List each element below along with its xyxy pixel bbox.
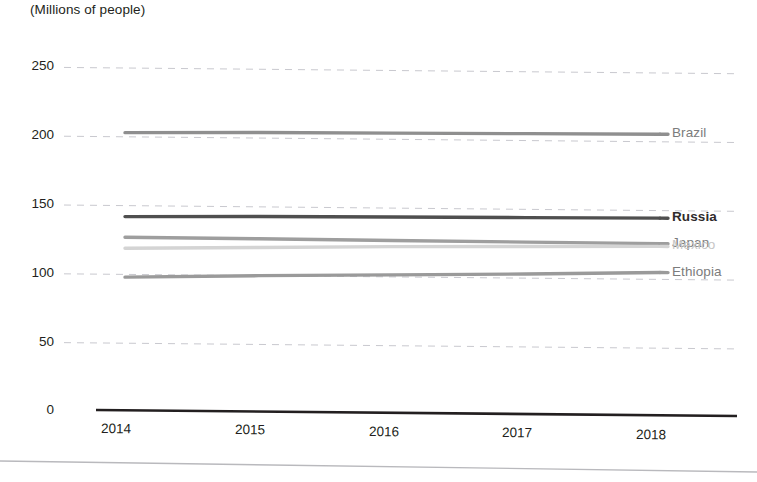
series-label-mexico[interactable]: Mexico	[672, 237, 715, 252]
series-line-mexico[interactable]	[125, 246, 660, 248]
x-tick-label-2014: 2014	[101, 421, 131, 436]
gridline-150	[64, 205, 740, 211]
x-tick-label-2016: 2016	[368, 424, 398, 439]
y-tick-label-0: 0	[8, 402, 54, 417]
legend-swatch-group	[660, 134, 668, 272]
x-tick-label-2017: 2017	[502, 425, 532, 440]
page-edge-rule	[0, 461, 757, 472]
gridline-50	[64, 343, 740, 349]
gridline-250	[64, 67, 740, 73]
series-label-russia[interactable]: Russia	[672, 209, 717, 224]
series-line-ethiopia[interactable]	[125, 273, 660, 278]
y-tick-label-250: 250	[8, 58, 54, 73]
y-tick-label-100: 100	[8, 265, 54, 280]
y-tick-label-50: 50	[8, 334, 54, 349]
series-line-japan[interactable]	[125, 237, 660, 243]
gridlines-group	[64, 67, 740, 349]
series-line-russia[interactable]	[125, 216, 660, 218]
chart-canvas	[0, 0, 757, 482]
gridline-200	[64, 136, 740, 142]
population-line-chart-figure: (Millions of people) 050100150200250 201…	[0, 0, 757, 482]
x-tick-label-2015: 2015	[235, 422, 265, 437]
series-label-ethiopia[interactable]: Ethiopia	[672, 264, 722, 279]
x-axis-line	[96, 410, 737, 416]
series-label-brazil[interactable]: Brazil	[672, 125, 706, 140]
x-tick-label-2018: 2018	[636, 427, 666, 442]
y-tick-label-200: 200	[8, 127, 54, 142]
y-tick-label-150: 150	[8, 196, 54, 211]
series-line-brazil[interactable]	[125, 133, 660, 135]
series-lines-group	[125, 133, 660, 278]
